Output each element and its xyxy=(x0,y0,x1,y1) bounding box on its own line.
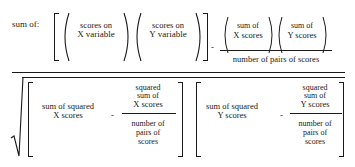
frac-top-b-line2: Y scores xyxy=(280,31,324,39)
y-frac-top-line3: Y scores xyxy=(288,100,342,108)
fraction-bar xyxy=(220,50,332,51)
minus-sign: - xyxy=(111,110,114,120)
right-paren-icon xyxy=(123,12,132,62)
right-bracket xyxy=(203,13,208,61)
minus-sign: - xyxy=(280,110,283,120)
right-paren-icon xyxy=(268,16,275,54)
radical-overbar xyxy=(22,77,345,78)
y-term-line2: Y scores xyxy=(198,111,266,119)
square-root-icon xyxy=(10,76,24,158)
left-bracket xyxy=(196,82,201,157)
x-frac-bottom-line3: scores xyxy=(120,138,176,146)
x-frac-top-line3: X scores xyxy=(120,100,176,108)
fraction-bar xyxy=(122,113,176,114)
main-fraction-bar xyxy=(12,72,345,73)
right-bracket xyxy=(178,82,183,157)
left-bracket xyxy=(54,13,59,61)
left-bracket xyxy=(28,82,33,157)
right-paren-icon xyxy=(322,16,329,54)
right-bracket xyxy=(339,82,344,157)
frac-bottom: number of pairs of scores xyxy=(220,55,332,63)
x-term-line2: X scores xyxy=(32,111,104,119)
y-frac-bottom-line3: scores xyxy=(288,138,342,146)
frac-top-a-line2: X scores xyxy=(226,31,270,39)
minus-sign: - xyxy=(211,42,214,52)
term2-line2: Y variable xyxy=(140,30,196,39)
term1-line2: X variable xyxy=(68,30,124,39)
fraction-bar xyxy=(290,113,342,114)
sum-of-label: sum of: xyxy=(12,19,39,29)
